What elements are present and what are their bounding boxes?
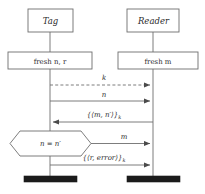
message-label-msg-m: m — [121, 133, 128, 141]
diagram-canvas: Tag Reader fresh n, r fresh m k n — [0, 0, 205, 194]
activity-label-fresh-nr: fresh n, r — [34, 58, 67, 66]
terminator-bar-reader — [127, 176, 180, 182]
message-label-msg-mn-subscript: k — [118, 114, 121, 120]
message-msg-m[interactable]: m — [91, 133, 150, 144]
actor-label-reader: Reader — [137, 16, 170, 26]
terminator-bar-tag — [24, 176, 77, 182]
message-label-msg-rerror-main: {⟨r, error⟩} — [83, 154, 123, 162]
activity-label-fresh-m: fresh m — [144, 58, 171, 66]
message-msg-k[interactable]: k — [50, 74, 150, 85]
sequence-diagram: Tag Reader fresh n, r fresh m k n — [0, 0, 205, 194]
message-label-msg-rerror: {⟨r, error⟩}k — [83, 154, 126, 163]
message-label-msg-rerror-subscript: k — [122, 157, 125, 163]
message-label-msg-n: n — [102, 91, 107, 99]
guard-hexagon-compare[interactable]: n = n′ — [10, 131, 91, 156]
message-label-msg-mn-main: {⟨m, n′⟩} — [87, 111, 119, 119]
actor-box-tag[interactable]: Tag — [28, 9, 73, 32]
message-label-msg-mn: {⟨m, n′⟩}k — [87, 111, 122, 120]
activity-box-fresh-nr[interactable]: fresh n, r — [8, 52, 92, 69]
message-msg-mn[interactable]: {⟨m, n′⟩}k — [53, 111, 153, 122]
message-label-msg-k: k — [102, 74, 106, 82]
actor-label-tag: Tag — [43, 16, 59, 26]
guard-label-compare: n = n′ — [40, 140, 61, 148]
activity-box-fresh-m[interactable]: fresh m — [118, 52, 198, 69]
actor-box-reader[interactable]: Reader — [127, 9, 179, 32]
message-msg-n[interactable]: n — [50, 91, 150, 102]
